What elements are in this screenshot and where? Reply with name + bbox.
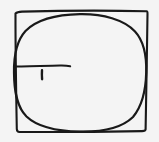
sketch-svg	[0, 0, 159, 142]
figure-canvas: Hand-drawn circle inscribed in a square	[0, 0, 159, 142]
canvas-background	[0, 0, 159, 142]
radius-line	[15, 66, 70, 67]
